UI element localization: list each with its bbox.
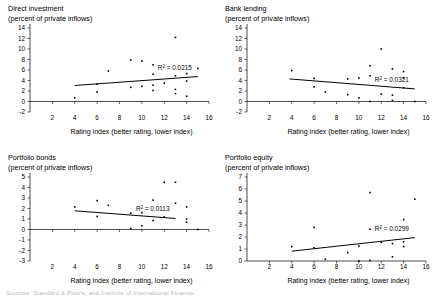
- data-point: [152, 64, 154, 66]
- x-axis-caption: Rating index (better rating, lower index…: [287, 128, 409, 136]
- y-tick-label: 0: [21, 226, 25, 233]
- y-tick-label: 10: [235, 45, 243, 52]
- data-point: [403, 71, 405, 73]
- data-point: [291, 70, 293, 72]
- y-tick-label: 2: [21, 87, 25, 94]
- data-point: [130, 59, 132, 61]
- data-point: [152, 73, 154, 75]
- x-tick-label: 4: [290, 263, 294, 270]
- chart-panel-portfolio-equity: Portfolio equity (percent of private inf…: [217, 149, 434, 297]
- data-point: [369, 101, 371, 103]
- x-tick-label: 8: [118, 263, 122, 270]
- data-point: [380, 93, 382, 95]
- y-tick-label: 12: [18, 35, 26, 42]
- data-point: [369, 192, 371, 194]
- y-tick-label: 4: [238, 77, 242, 84]
- y-tick-label: 8: [21, 56, 25, 63]
- data-point: [313, 78, 315, 80]
- chart-panel-direct-investment: Direct investment (percent of private in…: [0, 0, 217, 148]
- y-tick-label: 5: [238, 197, 242, 204]
- y-tick-label: 2: [238, 87, 242, 94]
- y-tick-label: 6: [238, 185, 242, 192]
- chart-panel-bank-lending: Bank lending (percent of private inflows…: [217, 0, 434, 148]
- data-point: [347, 78, 349, 80]
- data-point: [392, 256, 394, 258]
- x-axis-caption: Rating index (better rating, lower index…: [70, 128, 192, 136]
- data-point: [152, 199, 154, 201]
- data-point: [175, 37, 177, 39]
- figure-panel-grid: Direct investment (percent of private in…: [0, 0, 434, 297]
- x-tick-label: 4: [73, 114, 77, 121]
- x-tick-label: 12: [161, 114, 169, 121]
- data-point: [108, 205, 110, 207]
- data-point: [369, 260, 371, 262]
- y-tick-label: 4: [21, 184, 25, 191]
- x-tick-label: 6: [312, 114, 316, 121]
- data-point: [74, 206, 76, 208]
- x-axis-caption: Rating index (better rating, lower index…: [287, 277, 409, 285]
- data-point: [141, 60, 143, 62]
- r-squared-text: R2 = 0.0321: [375, 76, 409, 83]
- data-point: [186, 95, 188, 97]
- data-point: [96, 200, 98, 202]
- x-tick-label: 12: [378, 114, 386, 121]
- x-tick-label: 10: [138, 114, 146, 121]
- x-tick-label: 2: [268, 263, 272, 270]
- data-point: [141, 85, 143, 87]
- y-tick-label: 4: [238, 209, 242, 216]
- r-squared-annotation: R2 = 0.0215: [158, 64, 192, 71]
- scatter-plot-portfolio-bonds: -3-2-1012345246810121416R2 = 0.0113Ratin…: [0, 149, 217, 297]
- data-point: [130, 87, 132, 89]
- scatter-plot-bank-lending: -202468101214246810121416R2 = 0.0321Rati…: [217, 0, 434, 148]
- source-footer: Sources: Standard & Poor's; and Institut…: [0, 290, 434, 297]
- x-tick-label: 2: [51, 114, 55, 121]
- x-tick-label: 8: [335, 263, 339, 270]
- chart-panel-portfolio-bonds: Portfolio bonds (percent of private infl…: [0, 149, 217, 297]
- data-point: [291, 246, 293, 248]
- data-point: [175, 75, 177, 77]
- data-point: [347, 94, 349, 96]
- data-point: [152, 220, 154, 222]
- r-squared-annotation: R2 = 0.0113: [136, 205, 170, 212]
- data-point: [358, 245, 360, 247]
- x-tick-label: 10: [355, 114, 363, 121]
- data-point: [152, 90, 154, 92]
- x-tick-label: 16: [422, 263, 430, 270]
- data-point: [186, 206, 188, 208]
- data-point: [369, 228, 371, 230]
- data-point: [403, 246, 405, 248]
- data-point: [392, 94, 394, 96]
- y-tick-label: -2: [19, 108, 25, 115]
- y-tick-label: 5: [21, 173, 25, 180]
- x-tick-label: 2: [268, 114, 272, 121]
- x-tick-label: 4: [290, 114, 294, 121]
- source-footer-text: Sources: Standard & Poor's; and Institut…: [0, 290, 434, 296]
- x-tick-label: 12: [378, 263, 386, 270]
- r-squared-text: R2 = 0.0215: [158, 64, 192, 71]
- x-tick-label: 6: [312, 263, 316, 270]
- y-tick-label: 3: [238, 221, 242, 228]
- data-point: [175, 181, 177, 183]
- data-point: [325, 91, 327, 93]
- y-tick-label: 4: [21, 77, 25, 84]
- x-tick-label: 14: [400, 114, 408, 121]
- y-tick-label: 2: [21, 205, 25, 212]
- x-tick-label: 14: [183, 263, 191, 270]
- data-point: [152, 84, 154, 86]
- r-squared-text: R2 = 0.0299: [375, 225, 409, 232]
- r-squared-text: R2 = 0.0113: [136, 205, 170, 212]
- y-tick-label: -1: [19, 236, 25, 243]
- x-tick-label: 6: [95, 114, 99, 121]
- y-tick-label: 3: [21, 194, 25, 201]
- y-tick-label: 10: [18, 45, 26, 52]
- x-tick-label: 14: [183, 114, 191, 121]
- scatter-plot-portfolio-equity: 01234567246810121416R2 = 0.0299Rating in…: [217, 149, 434, 297]
- x-tick-label: 6: [95, 263, 99, 270]
- data-point: [414, 198, 416, 200]
- data-point: [369, 75, 371, 77]
- x-tick-label: 8: [118, 114, 122, 121]
- data-point: [108, 70, 110, 72]
- data-point: [369, 65, 371, 67]
- x-tick-label: 16: [422, 114, 430, 121]
- data-point: [163, 181, 165, 183]
